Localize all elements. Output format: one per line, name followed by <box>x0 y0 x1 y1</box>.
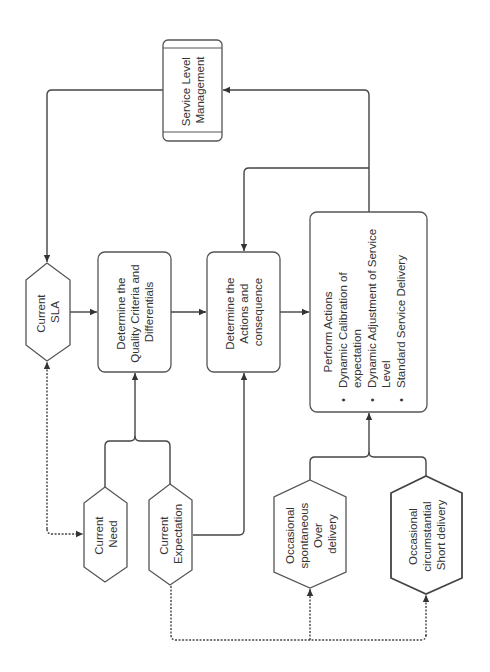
node-current-expectation[interactable]: Current Expectation <box>149 484 192 585</box>
perform-title: Perform Actions <box>322 291 334 372</box>
slm-label-line-2: Management <box>194 56 206 124</box>
over-label-line-4: delivery <box>326 514 338 554</box>
svg-text:Determine the Actions an: Determine the Actions and consequence <box>224 274 264 349</box>
actions-label-line-2: Actions and <box>238 284 250 344</box>
bullet-3-glyph: • <box>395 398 407 402</box>
over-label-line-3: Over <box>312 523 324 548</box>
bullet-2-line-2: Level <box>380 361 392 389</box>
edge-dashed-to-need <box>47 529 83 534</box>
quality-label-line-1: Determine the <box>115 277 127 349</box>
edge-over-merge <box>310 452 369 480</box>
node-determine-actions[interactable]: Determine the Actions and consequence <box>207 252 280 372</box>
short-label-line-1: Occasional <box>407 508 419 565</box>
bullet-1-line-2: expectation <box>351 329 363 388</box>
need-label-line-1: Current <box>93 516 105 555</box>
need-label-line-2: Need <box>107 520 119 548</box>
edge-dashed-expectation-bottom <box>171 586 426 640</box>
bullet-3-line-1: Standard Service Delivery <box>395 255 407 388</box>
diagram-canvas: Service Level Management Current SLA Det… <box>0 0 490 672</box>
quality-label-line-2: Quality Criteria and <box>129 264 141 362</box>
quality-label-line-3: Differentials <box>143 281 155 342</box>
node-service-level-management[interactable]: Service Level Management <box>163 40 222 141</box>
bullet-2-glyph: • <box>366 398 378 402</box>
svg-text:Occasional circumstantia: Occasional circumstantial Short delivery <box>407 498 447 572</box>
sla-label-line-2: SLA <box>49 301 61 323</box>
node-occasional-over-delivery[interactable]: Occasional spontaneous Over delivery <box>274 480 346 588</box>
over-label-line-1: Occasional <box>284 507 296 564</box>
node-determine-quality[interactable]: Determine the Quality Criteria and Diffe… <box>98 252 171 372</box>
node-occasional-short-delivery[interactable]: Occasional circumstantial Short delivery <box>391 476 462 594</box>
over-label-line-2: spontaneous <box>298 502 310 568</box>
actions-label-line-1: Determine the <box>224 277 236 349</box>
edge-perform-to-slm <box>223 90 369 212</box>
node-perform-actions[interactable]: Perform Actions • Dynamic Calibration of… <box>310 212 427 412</box>
slm-label-line-1: Service Level <box>180 57 192 126</box>
actions-label-line-3: consequence <box>252 278 264 346</box>
edge-short-merge <box>369 452 426 476</box>
bullet-2-line-1: Dynamic Adjustment of Service <box>366 229 378 388</box>
node-current-sla[interactable]: Current SLA <box>26 263 70 361</box>
expectation-label-line-1: Current <box>158 516 170 555</box>
short-label-line-2: circumstantial <box>421 501 433 571</box>
edge-expectation-merge <box>135 436 170 484</box>
bullet-1-glyph: • <box>337 398 349 402</box>
sla-label-line-1: Current <box>35 294 47 333</box>
edge-need-merge <box>105 436 135 487</box>
edge-slm-to-sla <box>47 90 163 262</box>
bullet-1-line-1: Dynamic Calibration of <box>337 272 349 388</box>
node-current-need[interactable]: Current Need <box>84 487 127 582</box>
expectation-label-line-2: Expectation <box>172 504 184 564</box>
short-label-line-3: Short delivery <box>435 500 447 571</box>
edge-expectation-to-actions <box>193 373 244 535</box>
